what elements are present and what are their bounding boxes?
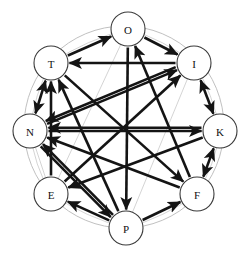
node-label-N: N	[26, 126, 34, 138]
node-E[interactable]: E	[34, 177, 68, 211]
node-label-I: I	[192, 58, 196, 70]
edge-I-to-K	[201, 80, 214, 113]
directed-graph-figure: OIKFPENT	[0, 0, 249, 254]
node-label-P: P	[123, 223, 129, 235]
node-label-T: T	[48, 58, 55, 70]
graph-canvas: OIKFPENT	[0, 0, 249, 254]
node-label-O: O	[124, 24, 132, 36]
edge-O-to-P	[126, 47, 128, 209]
node-O[interactable]: O	[111, 12, 145, 46]
node-label-E: E	[48, 189, 55, 201]
node-P[interactable]: P	[109, 211, 143, 245]
edge-P-to-F	[143, 202, 181, 220]
node-label-K: K	[216, 126, 224, 138]
edge-O-to-I	[144, 37, 177, 54]
node-K[interactable]: K	[203, 114, 237, 148]
node-T[interactable]: T	[34, 46, 68, 80]
node-F[interactable]: F	[180, 177, 214, 211]
node-N[interactable]: N	[13, 114, 47, 148]
node-label-F: F	[194, 189, 200, 201]
node-I[interactable]: I	[177, 46, 211, 80]
